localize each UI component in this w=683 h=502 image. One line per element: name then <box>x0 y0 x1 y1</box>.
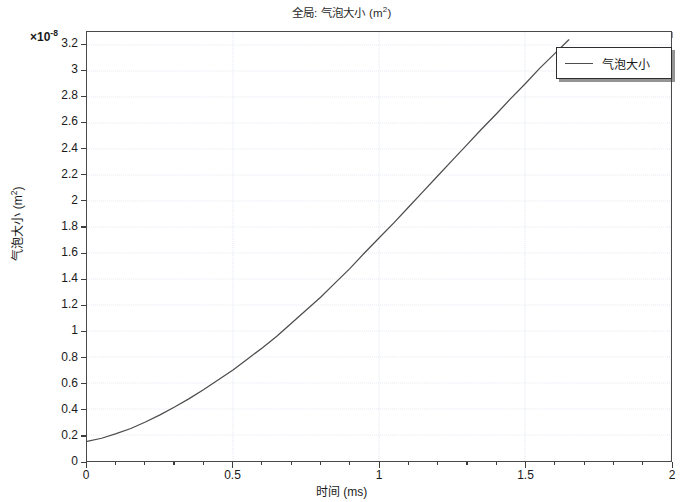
x-axis-tickmark-minor <box>144 462 145 465</box>
series-line-气泡大小 <box>87 40 569 442</box>
x-axis-tick-label: 1.5 <box>501 468 551 482</box>
x-axis-tickmark-minor <box>437 462 438 465</box>
x-axis-tickmark-minor <box>613 462 614 465</box>
x-axis-tickmark-minor <box>115 462 116 465</box>
y-axis-tick-label: 0 <box>26 454 78 468</box>
x-axis-tickmark-minor <box>408 462 409 465</box>
y-axis-tick-label: 3.2 <box>26 36 78 50</box>
x-axis-tickmark-minor <box>203 462 204 465</box>
y-axis-tick-label: 0.6 <box>26 376 78 390</box>
y-axis-tick-label: 0.8 <box>26 350 78 364</box>
x-axis-tickmark-minor <box>173 462 174 465</box>
x-axis-tickmark-minor <box>554 462 555 465</box>
legend-line-swatch-icon <box>565 63 593 64</box>
y-axis-title-tail: ) <box>11 186 25 190</box>
y-axis-tick-label: 0.4 <box>26 402 78 416</box>
x-axis-title-text: 时间 (ms) <box>316 485 367 499</box>
chart-title: 全局: 气泡大小 (m2) <box>0 4 683 20</box>
y-axis-title-superscript: 2 <box>9 190 19 195</box>
y-axis-tick-label: 1.4 <box>26 271 78 285</box>
x-axis-tickmark-minor <box>349 462 350 465</box>
chart-title-text: 全局: 气泡大小 (m <box>292 7 383 19</box>
chart-title-tail: ) <box>387 7 391 19</box>
x-axis-tickmark-minor <box>466 462 467 465</box>
plot-area <box>86 31 672 462</box>
x-axis-tickmark-minor <box>584 462 585 465</box>
y-axis-tick-label: 0.2 <box>26 428 78 442</box>
y-axis-tick-label: 1.8 <box>26 219 78 233</box>
x-axis-tick-label: 1 <box>354 468 404 482</box>
x-axis-tickmark-minor <box>642 462 643 465</box>
x-axis-tickmark-major <box>525 462 526 468</box>
y-axis-tick-label: 2.4 <box>26 141 78 155</box>
y-axis-tick-label: 2 <box>26 193 78 207</box>
x-axis-tickmark-major <box>379 462 380 468</box>
y-axis-tick-label: 1.2 <box>26 297 78 311</box>
y-axis-tick-label: 1 <box>26 323 78 337</box>
x-axis-tickmark-minor <box>261 462 262 465</box>
y-axis-tick-label: 2.6 <box>26 114 78 128</box>
y-axis-title-text: 气泡大小 (m <box>11 195 25 260</box>
legend-entry-label: 气泡大小 <box>602 55 650 72</box>
y-axis-tick-label: 1.6 <box>26 245 78 259</box>
y-axis-tick-label: 2.8 <box>26 88 78 102</box>
chart-canvas: 全局: 气泡大小 (m2) ×10-8 气泡大小 (m2) 时间 (ms) 00… <box>0 0 683 502</box>
y-axis-title: 气泡大小 (m2) <box>8 154 25 294</box>
x-axis-title: 时间 (ms) <box>0 482 683 499</box>
x-axis-tick-label: 2 <box>647 468 683 482</box>
x-axis-tickmark-major <box>232 462 233 468</box>
x-axis-tickmark-minor <box>291 462 292 465</box>
chart-legend[interactable]: 气泡大小 <box>556 47 672 79</box>
data-series-curve <box>87 32 671 461</box>
x-axis-tickmark-major <box>86 462 87 468</box>
y-axis-tick-label: 2.2 <box>26 167 78 181</box>
y-axis-tick-label: 3 <box>26 62 78 76</box>
x-axis-tickmark-minor <box>496 462 497 465</box>
x-axis-tick-label: 0.5 <box>208 468 258 482</box>
x-axis-tickmark-major <box>672 462 673 468</box>
x-axis-tickmark-minor <box>320 462 321 465</box>
x-axis-tick-label: 0 <box>61 468 111 482</box>
